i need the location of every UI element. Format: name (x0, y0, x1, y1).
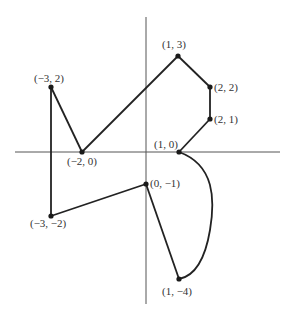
point-1-0 (176, 149, 181, 154)
label-1-0: (1, 0) (154, 138, 178, 151)
segment-1-3-to-2-2 (178, 56, 210, 87)
point-neg3-2 (48, 84, 53, 89)
point-2-2 (207, 84, 212, 89)
closed-path (51, 56, 212, 279)
vertices (48, 53, 212, 281)
point-2-1 (207, 116, 212, 121)
curve-1-0-to-1-neg4 (179, 152, 212, 279)
coordinate-plane-figure: (1, 3) (2, 2) (2, 1) (1, 0) (1, −4) (0, … (0, 0, 294, 315)
plot-canvas: (1, 3) (2, 2) (2, 1) (1, 0) (1, −4) (0, … (0, 0, 294, 315)
label-2-2: (2, 2) (214, 81, 238, 94)
label-0-neg1: (0, −1) (150, 177, 180, 190)
point-1-3 (175, 53, 180, 58)
label-2-1: (2, 1) (214, 113, 238, 126)
label-1-neg4: (1, −4) (162, 285, 192, 298)
segment-neg3-2-to-neg2-0 (51, 87, 82, 152)
label-1-3: (1, 3) (162, 38, 186, 51)
label-neg3-2: (−3, 2) (34, 72, 64, 85)
segment-1-neg4-to-0-neg1 (146, 184, 179, 279)
point-neg2-0 (79, 149, 84, 154)
point-0-neg1 (143, 181, 148, 186)
point-labels: (1, 3) (2, 2) (2, 1) (1, 0) (1, −4) (0, … (30, 38, 238, 298)
label-neg3-neg2: (−3, −2) (30, 217, 67, 230)
label-neg2-0: (−2, 0) (67, 155, 97, 168)
point-1-neg4 (176, 276, 181, 281)
segment-0-neg1-to-neg3-neg2 (51, 184, 146, 216)
segment-2-1-to-1-0 (179, 119, 210, 152)
